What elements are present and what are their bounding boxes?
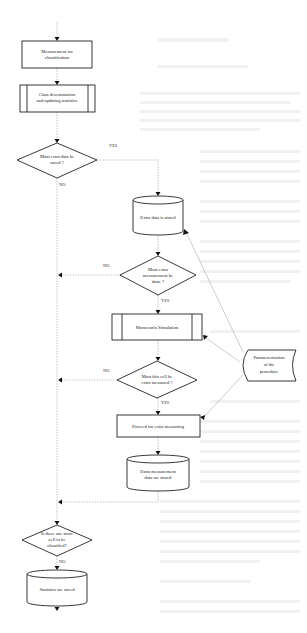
node-measurement: Measurement for classification [22,41,92,68]
node-label: procedure [260,369,278,374]
arrow-diagonal-icon [203,335,208,340]
edge-label-yes: YES [109,143,118,148]
node-label: Extra measurement [140,469,176,474]
node-label: Must this cell be [142,374,173,379]
arrow-down-icon [156,411,161,415]
arrow-down-icon [55,139,60,143]
node-statistics-saved: Statistics are saved [27,570,87,606]
node-label: measurement be [143,273,173,278]
node-label: of the [264,362,275,367]
edge-label-yes: YES [161,298,170,303]
node-label: Class determination [39,92,76,97]
node-label: Must extra data be [40,154,74,159]
arrow-down-icon [156,192,161,196]
node-label: Must extra [148,267,168,272]
node-class-determination: Class determination and updating statist… [20,85,95,112]
node-label: Statistics are saved [40,587,76,592]
node-montecarlo-simulation: Montecarlo Simulation [112,314,202,340]
node-label: classification [45,55,70,60]
arrow-down-icon [55,521,60,525]
node-label: classified? [47,543,66,548]
arrow-down-icon [156,252,161,256]
node-label: Proceed for extra measuring [132,424,185,429]
node-label: Extra data is stored [140,215,176,220]
node-label: saved ? [50,160,64,165]
edge-label-no: NO [103,263,109,268]
node-extra-measurement-stored: Extra measurement data are stored [127,455,189,491]
arrow-down-icon [55,37,60,41]
arrow-down-icon [55,566,60,570]
arrow-left-icon [58,273,62,278]
node-label: and updating statistics [37,98,78,103]
node-must-save-decision: Must extra data be saved ? [17,143,97,178]
arrow-down-icon [156,310,161,314]
arrow-left-icon [58,500,62,505]
node-label: data are stored [145,475,172,480]
arrow-down-icon [55,607,60,611]
arrow-down-icon [156,357,161,361]
node-proceed-extra-measuring: Proceed for extra measuring [117,415,200,437]
edge-label-no: NO [59,182,65,187]
arrow-down-icon [55,81,60,85]
node-parameterization: Parameterization of the procedure [243,350,296,381]
node-label: Montecarlo Simulation [136,325,179,330]
node-label: Is there one more [41,531,73,536]
edge-label-no: NO [103,368,109,373]
arrow-diagonal-icon [183,229,189,235]
node-must-measure-decision: Must extra measurement be done ? [120,256,196,295]
node-extra-data-stored: Extra data is stored [133,196,183,235]
flowchart: Measurement for classification Class det… [0,0,307,633]
node-label: done ? [152,279,164,284]
arrow-down-icon [156,451,161,455]
edge-label-no: NO [59,559,65,564]
arrow-left-icon [58,378,62,383]
arrow-diagonal-icon [200,415,205,420]
node-label: Measurement for [41,49,73,54]
node-label: Parameterization [253,355,285,360]
node-label: cell to be [49,537,66,542]
node-more-cells-decision: Is there one more cell to be classified? [22,525,92,556]
node-label: extra measured ? [141,380,172,385]
node-must-cell-decision: Must this cell be extra measured ? [117,361,197,398]
edge-label-yes: YES [161,400,170,405]
